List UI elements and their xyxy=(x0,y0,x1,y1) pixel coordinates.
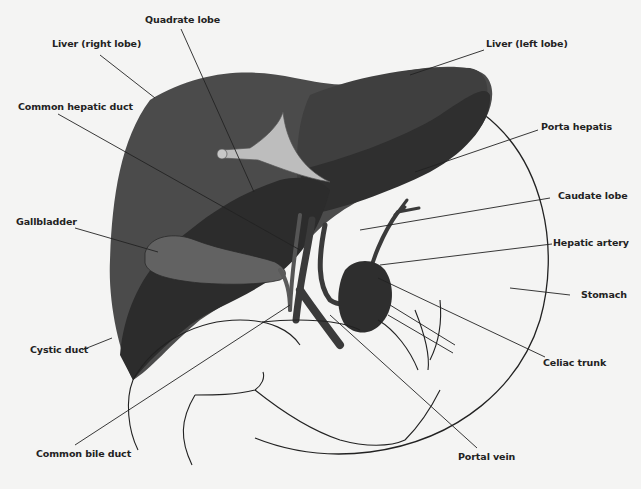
label-common-hepatic-duct: Common hepatic duct xyxy=(18,101,133,112)
label-caudate-lobe: Caudate lobe xyxy=(558,190,627,201)
label-liver-right-lobe: Liver (right lobe) xyxy=(52,38,141,49)
anatomy-illustration xyxy=(0,0,641,489)
label-cystic-duct: Cystic duct xyxy=(30,344,88,355)
label-celiac-trunk: Celiac trunk xyxy=(543,357,606,368)
label-portal-vein: Portal vein xyxy=(458,451,515,462)
label-hepatic-artery: Hepatic artery xyxy=(553,237,629,248)
label-stomach: Stomach xyxy=(581,289,627,300)
label-liver-left-lobe: Liver (left lobe) xyxy=(486,38,568,49)
label-porta-hepatis: Porta hepatis xyxy=(541,121,612,132)
round-ligament-end xyxy=(217,149,227,159)
label-quadrate-lobe: Quadrate lobe xyxy=(145,14,220,25)
label-common-bile-duct: Common bile duct xyxy=(36,448,131,459)
celiac-mass xyxy=(338,261,392,333)
liver-anatomy-diagram: Quadrate lobe Liver (right lobe) Common … xyxy=(0,0,641,489)
label-gallbladder: Gallbladder xyxy=(16,216,77,227)
